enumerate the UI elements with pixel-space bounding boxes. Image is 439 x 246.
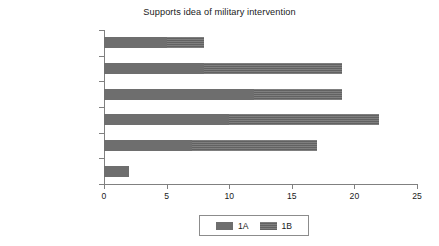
legend-swatch-icon (260, 222, 277, 230)
bar-segment-1a (104, 89, 254, 100)
bar-segment-1a (104, 63, 204, 74)
y-axis-tick (99, 81, 104, 82)
bar-row (104, 63, 342, 74)
x-axis-tick (354, 184, 355, 189)
bar-row (104, 89, 342, 100)
x-axis-tick (104, 184, 105, 189)
x-axis-tick (167, 184, 168, 189)
bar-segment-1b (229, 114, 379, 125)
chart-title: Supports idea of military intervention (0, 7, 439, 17)
plot-area (104, 30, 417, 184)
x-axis-tick-label: 0 (89, 191, 119, 201)
x-axis-tick (292, 184, 293, 189)
bar-segment-1a (104, 114, 229, 125)
x-axis-line (104, 184, 418, 185)
bar-segment-1b (204, 63, 342, 74)
x-axis-tick-label: 5 (152, 191, 182, 201)
bar-row (104, 37, 204, 48)
y-axis-tick (99, 107, 104, 108)
bar-row (104, 114, 379, 125)
legend-label: 1A (238, 221, 249, 231)
x-axis-tick (417, 184, 418, 189)
bar-segment-1b (167, 37, 205, 48)
legend-entry-1a[interactable]: 1A (216, 221, 249, 231)
x-axis-tick (229, 184, 230, 189)
legend-swatch-icon (216, 222, 233, 230)
chart-legend: 1A1B (199, 215, 309, 236)
x-axis-tick-label: 10 (214, 191, 244, 201)
bar-segment-1b (254, 89, 342, 100)
y-axis-tick (99, 56, 104, 57)
bar-row (104, 166, 129, 177)
x-axis-tick-label: 15 (277, 191, 307, 201)
x-axis-tick-label: 20 (339, 191, 369, 201)
y-axis-tick (99, 30, 104, 31)
bar-segment-1a (104, 140, 192, 151)
x-axis-tick-label: 25 (402, 191, 432, 201)
bar-segment-1a (104, 37, 167, 48)
chart-container: Supports idea of military intervention S… (0, 0, 439, 246)
bar-row (104, 140, 317, 151)
bar-segment-1a (104, 166, 129, 177)
bar-segment-1b (192, 140, 317, 151)
legend-entry-1b[interactable]: 1B (260, 221, 293, 231)
y-axis-tick (99, 158, 104, 159)
y-axis-tick (99, 133, 104, 134)
legend-label: 1B (282, 221, 293, 231)
